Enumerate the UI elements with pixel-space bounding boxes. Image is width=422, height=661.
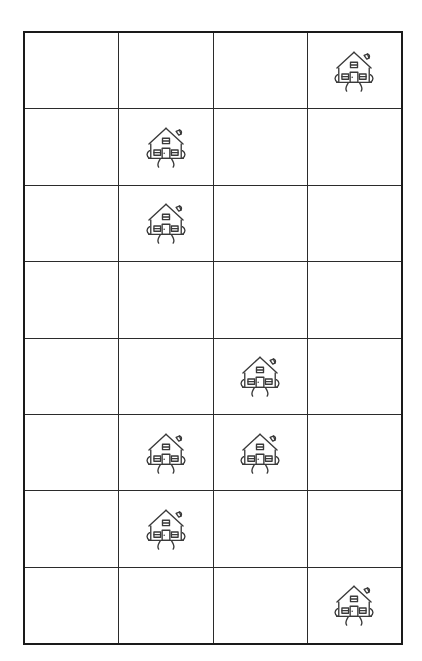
cell-content (119, 339, 212, 414)
cell-content (119, 109, 212, 184)
cell-content (214, 262, 307, 337)
cell-content (119, 262, 212, 337)
cell-content (119, 415, 212, 490)
grid-cell-r5-c1[interactable] (24, 338, 119, 414)
cell-content (25, 568, 118, 643)
grid-cell-r6-c3[interactable] (213, 414, 307, 490)
grid-row (24, 109, 402, 185)
grid-row (24, 262, 402, 338)
house-grid-container (23, 31, 396, 634)
cell-content (25, 491, 118, 566)
cell-content (119, 491, 212, 566)
grid-cell-r7-c3[interactable] (213, 491, 307, 567)
grid-row (24, 185, 402, 261)
grid-cell-r3-c4[interactable] (307, 185, 402, 261)
cell-content (25, 186, 118, 261)
cell-content (308, 568, 401, 643)
grid-cell-r4-c4[interactable] (307, 262, 402, 338)
cell-content (308, 491, 401, 566)
cell-content (25, 339, 118, 414)
cell-content (308, 415, 401, 490)
grid-cell-r1-c4[interactable] (307, 32, 402, 109)
house-grid-body (24, 32, 402, 644)
house-icon (232, 348, 288, 404)
grid-cell-r4-c3[interactable] (213, 262, 307, 338)
grid-cell-r2-c4[interactable] (307, 109, 402, 185)
grid-row (24, 414, 402, 490)
grid-cell-r3-c1[interactable] (24, 185, 119, 261)
cell-content (214, 339, 307, 414)
cell-content (119, 568, 212, 643)
grid-cell-r8-c2[interactable] (119, 567, 213, 644)
grid-cell-r4-c1[interactable] (24, 262, 119, 338)
house-grid-table (23, 31, 403, 645)
cell-content (25, 262, 118, 337)
grid-row (24, 491, 402, 567)
cell-content (308, 33, 401, 108)
cell-content (214, 415, 307, 490)
grid-cell-r5-c4[interactable] (307, 338, 402, 414)
cell-content (119, 33, 212, 108)
cell-content (214, 568, 307, 643)
grid-cell-r2-c3[interactable] (213, 109, 307, 185)
house-icon (326, 577, 382, 633)
cell-content (25, 33, 118, 108)
grid-cell-r8-c4[interactable] (307, 567, 402, 644)
grid-cell-r3-c2[interactable] (119, 185, 213, 261)
cell-content (214, 491, 307, 566)
house-icon (138, 501, 194, 557)
grid-cell-r3-c3[interactable] (213, 185, 307, 261)
grid-cell-r4-c2[interactable] (119, 262, 213, 338)
house-icon (326, 43, 382, 99)
grid-cell-r5-c2[interactable] (119, 338, 213, 414)
cell-content (214, 33, 307, 108)
grid-cell-r7-c2[interactable] (119, 491, 213, 567)
house-icon (138, 195, 194, 251)
grid-cell-r2-c1[interactable] (24, 109, 119, 185)
grid-cell-r1-c3[interactable] (213, 32, 307, 109)
cell-content (119, 186, 212, 261)
house-icon (138, 425, 194, 481)
house-icon (138, 119, 194, 175)
cell-content (308, 109, 401, 184)
grid-cell-r6-c2[interactable] (119, 414, 213, 490)
cell-content (308, 262, 401, 337)
cell-content (214, 109, 307, 184)
house-icon (232, 425, 288, 481)
grid-cell-r6-c1[interactable] (24, 414, 119, 490)
grid-cell-r7-c4[interactable] (307, 491, 402, 567)
grid-cell-r8-c1[interactable] (24, 567, 119, 644)
grid-cell-r8-c3[interactable] (213, 567, 307, 644)
grid-cell-r1-c1[interactable] (24, 32, 119, 109)
grid-cell-r5-c3[interactable] (213, 338, 307, 414)
cell-content (25, 109, 118, 184)
grid-row (24, 32, 402, 109)
grid-cell-r6-c4[interactable] (307, 414, 402, 490)
grid-row (24, 567, 402, 644)
grid-cell-r2-c2[interactable] (119, 109, 213, 185)
grid-cell-r7-c1[interactable] (24, 491, 119, 567)
cell-content (308, 186, 401, 261)
cell-content (214, 186, 307, 261)
cell-content (308, 339, 401, 414)
cell-content (25, 415, 118, 490)
grid-row (24, 338, 402, 414)
grid-cell-r1-c2[interactable] (119, 32, 213, 109)
